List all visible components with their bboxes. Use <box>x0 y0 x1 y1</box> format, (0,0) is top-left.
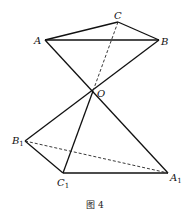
label-A1: A1 <box>169 172 182 185</box>
label-C1: C1 <box>57 177 69 190</box>
segment-B1C1 <box>25 141 63 173</box>
label-C: C <box>114 10 122 21</box>
segment-OC1 <box>63 91 93 173</box>
label-B1: B1 <box>11 135 24 148</box>
segment-AC <box>45 22 118 40</box>
segment-BB1 <box>25 40 159 141</box>
figure-caption: 图 4 <box>86 200 104 210</box>
label-A: A <box>33 35 41 46</box>
label-B: B <box>160 36 168 47</box>
segment-AA1 <box>45 40 168 173</box>
segment-B1A1-dashed <box>25 141 168 173</box>
segment-CB <box>118 22 159 40</box>
label-O: O <box>97 88 105 99</box>
geometry-figure: A B C O B1 C1 A1 图 4 <box>0 0 190 216</box>
